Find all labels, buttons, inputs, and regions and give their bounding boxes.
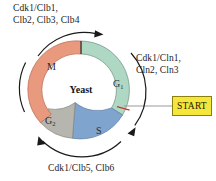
annotation-g1-cyclins: Cdk1/Cln1, Cln2, Cln3: [136, 53, 181, 76]
arrow-arc-bottom: [43, 141, 122, 157]
start-checkpoint-box: START: [172, 96, 212, 116]
annotation-m-cyclins: Cdk1/Clb1, Clb2, Clb3, Clb4: [13, 3, 80, 26]
arrow-head-top: [94, 30, 103, 37]
annotation-g1-cyclins-line1: Cdk1/Cln1,: [136, 53, 181, 65]
arrow-head-bottom: [37, 136, 45, 145]
annotation-s-cyclins-line1: Cdk1/Clb5, Clb6: [48, 163, 114, 175]
cell-cycle-ring-graphic: M G1 S G2: [0, 0, 216, 181]
phase-label-m: M: [47, 61, 56, 72]
arrow-head-right: [128, 127, 136, 136]
annotation-s-cyclins: Cdk1/Clb5, Clb6: [48, 163, 114, 175]
diagram-center-label: Yeast: [55, 84, 107, 95]
phase-label-s: S: [96, 125, 102, 136]
annotation-m-cyclins-line1: Cdk1/Clb1,: [13, 3, 80, 15]
annotation-g1-cyclins-line2: Cln2, Cln3: [136, 65, 181, 77]
arrow-arc-left: [19, 63, 25, 113]
cell-cycle-diagram: M G1 S G2 Cdk1/Clb1, Clb2, Clb3, Clb4 Cd…: [0, 0, 216, 181]
annotation-m-cyclins-line2: Clb2, Clb3, Clb4: [13, 15, 80, 27]
phase-sector-g1: [81, 41, 129, 115]
